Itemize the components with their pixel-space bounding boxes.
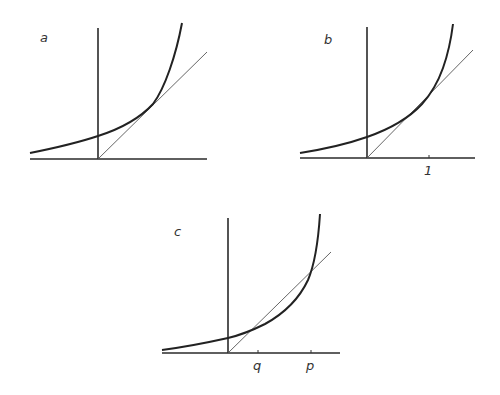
panel-b-tick-label-1: 1 <box>424 164 432 177</box>
panel-a <box>30 23 207 159</box>
panel-c-tick-label-q: q <box>253 359 261 372</box>
panel-c-secant-line <box>228 252 331 353</box>
panel-b-exp-curve <box>300 24 453 153</box>
panel-c-exp-curve <box>162 214 320 350</box>
panel-c-label: c <box>174 225 181 238</box>
panel-a-label: a <box>40 31 48 44</box>
diagram-svg <box>0 0 500 395</box>
panel-c-tick-label-p: p <box>306 359 314 372</box>
panel-c <box>162 214 340 353</box>
panel-b-label: b <box>324 33 332 46</box>
panel-a-exp-curve <box>30 23 182 153</box>
figure: a b 1 c q p <box>0 0 500 395</box>
panel-b-tangent-line <box>367 50 473 158</box>
